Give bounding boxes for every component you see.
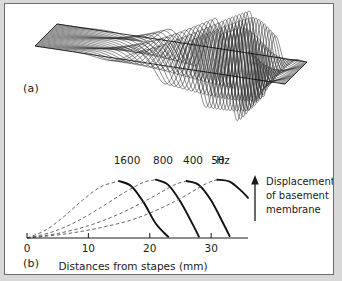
panel-a-waterfall-plot: (a) xyxy=(5,4,334,144)
mesh-outline xyxy=(35,24,307,84)
tuning-curve-group xyxy=(27,180,248,238)
frequency-label: 800 xyxy=(153,154,173,166)
annotation-line-3: membrane xyxy=(266,204,321,215)
up-arrow-icon xyxy=(251,175,259,221)
x-axis-ticks xyxy=(27,233,211,238)
waterfall-svg xyxy=(5,4,334,144)
tuning-curve-falling-flank xyxy=(187,181,230,236)
figure-frame: (a) 160080040050 Hz 0102030 Distances fr… xyxy=(4,3,334,275)
panel-a-label: (a) xyxy=(23,82,39,95)
panel-b-label: (b) xyxy=(23,257,39,270)
panel-b-tuning-curves: 160080040050 Hz 0102030 Distances from s… xyxy=(5,142,334,275)
tuning-curve-falling-flank xyxy=(119,181,168,237)
x-axis-tick-label: 0 xyxy=(24,242,31,254)
tuning-curve-rising-flank xyxy=(27,181,119,238)
tuning-curve-rising-flank xyxy=(27,181,187,238)
annotation-line-1: Displacement xyxy=(266,176,334,187)
x-axis-tick-label: 10 xyxy=(82,242,95,254)
x-axis-tick-labels: 0102030 xyxy=(24,242,218,254)
displacement-annotation: Displacement of basement membrane xyxy=(251,175,334,221)
x-axis-tick-label: 20 xyxy=(143,242,156,254)
tuning-curves-svg: 160080040050 Hz 0102030 Distances from s… xyxy=(5,142,334,275)
frequency-legend: 160080040050 xyxy=(114,154,225,166)
frequency-label: 400 xyxy=(183,154,203,166)
tuning-curve-falling-flank xyxy=(156,180,199,237)
frequency-unit-label: Hz xyxy=(216,154,230,166)
x-axis-title: Distances from stapes (mm) xyxy=(58,260,207,272)
x-axis-tick-label: 30 xyxy=(204,242,217,254)
tuning-curve-rising-flank xyxy=(27,180,217,238)
frequency-label: 1600 xyxy=(114,154,141,166)
mesh-lines xyxy=(35,11,307,121)
tuning-curve-falling-flank xyxy=(217,180,248,198)
annotation-line-2: of basement xyxy=(266,190,329,201)
